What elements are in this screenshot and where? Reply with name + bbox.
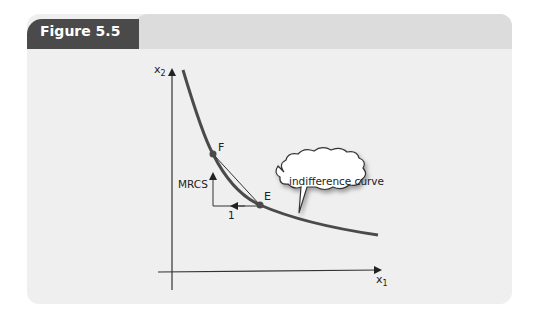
indifference-diagram: x2 x1 F E MRCS 1 indifference curve [0,0,538,318]
callout-text: indifference curve [289,175,384,187]
x-axis [158,270,380,272]
point-f-label: F [218,141,224,154]
point-e [257,202,264,209]
chord-fe [213,154,260,205]
point-f [210,151,217,158]
y-axis-label: x2 [154,63,166,78]
unit-label: 1 [228,209,235,221]
mrcs-label: MRCS [178,178,208,190]
x-axis-label: x1 [376,273,388,288]
point-e-label: E [264,190,271,203]
